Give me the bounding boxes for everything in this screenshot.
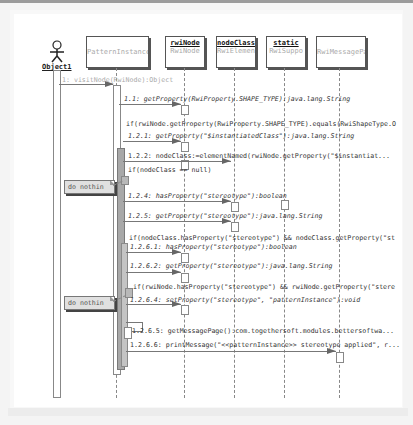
object-node-class[interactable]: nodeClass RwiElemen xyxy=(216,36,256,68)
condition-label: if(nodeClass == null) xyxy=(128,166,211,174)
message-label: 1.2.5: getProperty("stereotype"):java.la… xyxy=(128,212,323,220)
message-label: 1.2.6.1: hasProperty("stereotype"):boole… xyxy=(130,243,297,251)
activation-self-call xyxy=(124,327,132,339)
message-label: 1.1: getProperty(RwiProperty.SHAPE_TYPE)… xyxy=(124,95,350,103)
message-label: 1.2.4: hasProperty("stereotype"):boolean xyxy=(128,192,287,200)
note-text: do nothin xyxy=(68,299,104,307)
window-top-border xyxy=(0,0,413,3)
activation-rwi-node-set xyxy=(181,305,189,315)
object-rwi-node[interactable]: rwiNode RwiNode xyxy=(165,36,205,68)
object-instance-label: rwiNode xyxy=(166,37,204,47)
actor-icon xyxy=(44,40,70,64)
object-static[interactable]: static RwiSuppo xyxy=(266,36,306,68)
activation-rwi-node-1 xyxy=(181,105,189,115)
object-class-label: RwiNode xyxy=(166,47,204,55)
object-pattern-instance[interactable]: PatternInstance xyxy=(86,36,149,68)
object-instance-label: static xyxy=(267,37,305,47)
message-arrow[interactable] xyxy=(123,221,231,222)
activation-node-class-4 xyxy=(181,273,189,283)
activation-node-class-1 xyxy=(231,202,239,212)
note-text: do nothin xyxy=(68,183,104,191)
horizontal-scrollbar[interactable] xyxy=(8,408,408,416)
activation-rwi-node-2 xyxy=(181,142,189,152)
message-arrow[interactable] xyxy=(123,161,231,162)
object-class-label: RwiMessagePa xyxy=(317,37,365,56)
note-do-nothing-2[interactable]: do nothin xyxy=(64,296,115,310)
condition-label: if(rwiNode.getProperty(RwiProperty.SHAPE… xyxy=(126,120,396,128)
message-label: 1.2.6.5: getMessagePage():com.togetherso… xyxy=(132,327,394,335)
activation-if-block-2 xyxy=(121,243,128,367)
object-class-label: RwiSuppo xyxy=(267,47,305,55)
message-label: 1.2.6.4: setProperty("stereotype", "patt… xyxy=(130,296,360,304)
message-label: 1.2.6.2: getProperty("stereotype"):java.… xyxy=(130,262,332,270)
condition-label: if(rwiNode.hasProperty("stereotype") && … xyxy=(133,283,395,291)
object-class-label: RwiElemen xyxy=(217,47,255,55)
message-label: 1.2.6.6: printMessage("<<patternInstance… xyxy=(130,341,400,349)
object-class-label: PatternInstance xyxy=(87,37,148,56)
activation-message-page xyxy=(336,352,344,363)
message-arrow[interactable] xyxy=(126,351,336,352)
activation-static xyxy=(281,200,289,210)
object-instance-label: nodeClass xyxy=(217,37,255,47)
condition-label: if(nodeClass.hasProperty("stereotype") &… xyxy=(129,234,395,242)
message-arrow[interactable] xyxy=(123,201,231,202)
message-label: 1: visitNode(RwiNode):Object xyxy=(62,76,173,84)
note-do-nothing-1[interactable]: do nothin xyxy=(64,180,115,194)
activation-node-class-2 xyxy=(231,222,239,232)
activation-object1 xyxy=(53,70,61,398)
object-message-page[interactable]: RwiMessagePa xyxy=(316,36,366,68)
message-label: 1.2.2: nodeClass:=elementNamed(rwiNode.g… xyxy=(128,152,390,160)
message-label: 1.2.1: getProperty("$instantiatedClass")… xyxy=(128,132,354,140)
actor-object1[interactable]: Object1 xyxy=(44,40,70,70)
